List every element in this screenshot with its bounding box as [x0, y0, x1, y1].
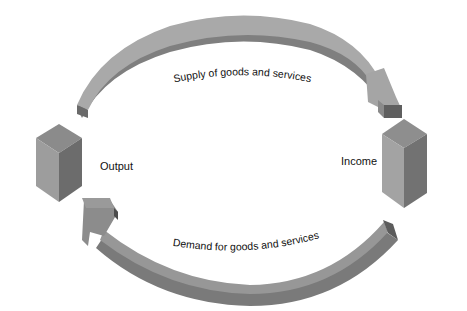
demand-flow-label: Demand for goods and services: [172, 229, 320, 253]
supply-flow-label: Supply of goods and services: [172, 65, 312, 84]
circular-flow-diagram: Supply of goods and services Demand for …: [0, 0, 467, 311]
income-label: Income: [341, 155, 377, 167]
output-label: Output: [100, 160, 133, 172]
income-cube-icon: [382, 119, 427, 208]
output-cube-icon: [36, 124, 82, 202]
